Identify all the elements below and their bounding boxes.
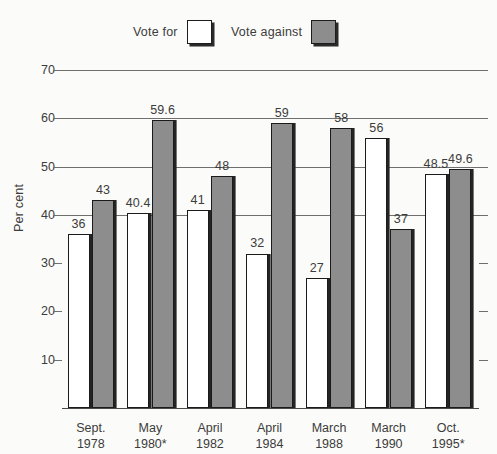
bar-vote-for-5 [365,138,387,408]
bar-vote-for-1 [127,213,149,408]
x-axis-label-month: March [371,421,406,435]
x-axis-label-5: March1990 [371,420,406,452]
bar-value-label: 58 [334,111,348,125]
y-tick-mark-right-50 [479,167,488,168]
bar-value-label: 48.5 [424,157,449,171]
x-axis-label-month: April [197,421,222,435]
bar-vote-for-4 [306,278,328,408]
y-tick-mark-right-20 [479,311,488,312]
bar-vote-against-3 [271,123,293,408]
gridline-70 [62,70,479,71]
legend-label-vote-against: Vote against [231,25,302,39]
bar-vote-against-2 [211,176,233,408]
legend-item-vote-for: Vote for [133,20,212,44]
x-axis-label-4: March1988 [312,420,347,452]
gridline-60 [62,118,479,119]
x-axis-label-6: Oct.1995* [432,420,465,452]
y-tick-mark-40 [53,215,62,216]
bar-value-label: 59 [275,106,289,120]
bar-value-label: 56 [369,121,383,135]
y-tick-mark-right-10 [479,360,488,361]
y-tick-mark-right-30 [479,263,488,264]
bar-vote-against-5 [390,229,412,408]
bar-value-label: 36 [71,217,85,231]
y-tick-mark-50 [53,167,62,168]
x-axis-label-month: March [312,421,347,435]
bar-vote-against-4 [330,128,352,408]
y-tick-mark-20 [53,311,62,312]
bar-value-label: 27 [310,261,324,275]
x-axis-label-1: May1980* [134,420,167,452]
legend-item-vote-against: Vote against [231,20,336,44]
y-tick-mark-30 [53,263,62,264]
bar-vote-for-2 [187,210,209,408]
bar-vote-against-0 [92,200,114,408]
x-axis-label-year: 1984 [256,436,284,452]
x-axis-label-year: 1995* [432,436,465,452]
bar-vote-for-0 [68,234,90,408]
x-axis-baseline [62,408,479,409]
x-axis-label-month: Oct. [437,421,460,435]
y-tick-mark-70 [53,70,62,71]
x-axis-label-month: April [257,421,282,435]
bar-value-label: 40.4 [126,196,151,210]
legend-swatch-vote-against [311,20,336,44]
y-tick-mark-right-40 [479,215,488,216]
y-tick-mark-right-70 [479,70,488,71]
chart-legend: Vote for Vote against [0,16,497,56]
bar-value-label: 49.6 [448,152,473,166]
bar-vote-against-6 [449,169,471,408]
legend-swatch-vote-for [187,20,212,44]
x-axis-label-year: 1990 [371,436,406,452]
y-tick-mark-60 [53,118,62,119]
bar-vote-against-1 [152,120,174,408]
bar-value-label: 32 [250,236,264,250]
plot-area: 10203040506070364340.459.641483259275856… [62,60,479,415]
x-axis-label-year: 1980* [134,436,167,452]
bar-value-label: 43 [96,183,110,197]
y-tick-mark-10 [53,360,62,361]
x-axis-label-month: Sept. [76,421,105,435]
x-axis-label-0: Sept.1978 [76,420,105,452]
y-axis-title: Per cent [12,184,26,232]
x-axis-label-year: 1982 [196,436,224,452]
x-axis-label-year: 1978 [76,436,105,452]
bar-vote-for-3 [246,254,268,409]
bar-value-label: 37 [394,212,408,226]
x-axis-label-2: April1982 [196,420,224,452]
x-axis-label-year: 1988 [312,436,347,452]
bar-chart: Vote for Vote against Per cent 102030405… [0,0,497,454]
x-axis-label-3: April1984 [256,420,284,452]
bar-value-label: 41 [191,193,205,207]
bar-value-label: 59.6 [150,103,175,117]
x-axis-label-month: May [139,421,163,435]
legend-label-vote-for: Vote for [133,25,178,39]
bar-vote-for-6 [425,174,447,408]
y-tick-mark-right-60 [479,118,488,119]
bar-value-label: 48 [215,159,229,173]
